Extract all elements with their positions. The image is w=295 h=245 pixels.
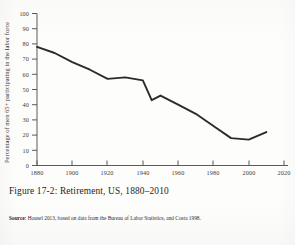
- x-axis-tick-labels: 1880 1900 1920 1940 1960 1980 2000 2020: [31, 169, 291, 176]
- x-axis-ticks: [37, 161, 284, 166]
- svg-text:30: 30: [23, 116, 29, 123]
- source-label: Source:: [9, 215, 26, 221]
- svg-text:100: 100: [19, 10, 29, 17]
- line-chart-svg: Percentage of men 65+ participating in t…: [0, 0, 295, 182]
- svg-text:1940: 1940: [137, 169, 150, 176]
- source-text: Housel 2013, based on data from the Bure…: [28, 215, 201, 221]
- svg-text:0: 0: [26, 162, 29, 169]
- svg-text:1960: 1960: [172, 169, 185, 176]
- svg-text:90: 90: [23, 25, 29, 32]
- svg-text:2020: 2020: [278, 169, 291, 176]
- svg-text:1900: 1900: [66, 169, 79, 176]
- svg-text:60: 60: [23, 71, 29, 78]
- svg-text:1880: 1880: [31, 169, 44, 176]
- y-axis-ticks: [32, 14, 37, 166]
- svg-text:40: 40: [23, 101, 29, 108]
- svg-text:1920: 1920: [101, 169, 114, 176]
- svg-text:70: 70: [23, 55, 29, 62]
- chart-plot-area: Percentage of men 65+ participating in t…: [0, 0, 295, 182]
- figure-caption: Figure 17-2: Retirement, US, 1880–2010: [9, 186, 289, 197]
- data-series-line: [37, 47, 266, 140]
- source-note: Source: Housel 2013, based on data from …: [9, 215, 291, 222]
- figure-container: Percentage of men 65+ participating in t…: [0, 0, 295, 245]
- y-axis-tick-labels: 0 10 20 30 40 50 60 70 80 90 100: [19, 10, 29, 169]
- svg-text:2000: 2000: [243, 169, 256, 176]
- svg-text:50: 50: [23, 86, 29, 93]
- svg-text:80: 80: [23, 40, 29, 47]
- svg-text:1980: 1980: [207, 169, 220, 176]
- caption-block: Figure 17-2: Retirement, US, 1880–2010: [9, 186, 289, 197]
- y-axis-label: Percentage of men 65+ participating in t…: [3, 22, 10, 163]
- svg-text:20: 20: [23, 131, 29, 138]
- svg-text:10: 10: [23, 147, 29, 154]
